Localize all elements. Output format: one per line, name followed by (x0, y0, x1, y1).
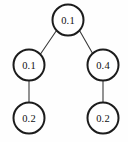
node-label-root: 0.1 (61, 15, 75, 26)
node-left[interactable]: 0.1 (14, 50, 45, 81)
edge-root-to-left (40, 31, 57, 56)
node-label-right: 0.4 (96, 60, 110, 71)
tree-diagram: 0.1 0.1 0.4 0.2 0.2 (0, 0, 128, 142)
node-left-leaf[interactable]: 0.2 (14, 103, 45, 134)
tree-diagram-canvas: 0.1 0.1 0.4 0.2 0.2 (0, 0, 128, 142)
node-right[interactable]: 0.4 (88, 50, 119, 81)
node-right-leaf[interactable]: 0.2 (88, 103, 119, 134)
node-root[interactable]: 0.1 (53, 5, 84, 36)
node-label-left: 0.1 (22, 60, 36, 71)
edge-root-to-right (80, 31, 94, 56)
node-label-left-leaf: 0.2 (22, 113, 36, 124)
node-label-right-leaf: 0.2 (96, 113, 110, 124)
